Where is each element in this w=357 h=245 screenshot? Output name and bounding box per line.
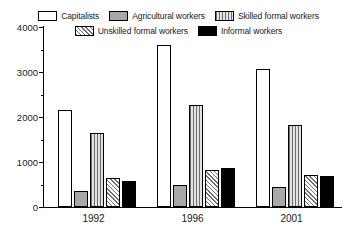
bar-group-1992: 1992 [44, 27, 143, 207]
bar-unskilled-formal-workers-1996 [205, 170, 219, 207]
y-tick-label: 2000 [17, 112, 44, 123]
bar-agricultural-workers-1992 [74, 191, 88, 207]
legend-swatch-skilled-formal-workers [215, 11, 234, 21]
bar-informal-workers-1996 [221, 168, 235, 207]
legend-swatch-agricultural-workers [109, 11, 128, 21]
bar-informal-workers-2001 [320, 176, 334, 207]
bar-skilled-formal-workers-1996 [189, 105, 203, 207]
bars-container [157, 27, 237, 207]
x-axis-label-1992: 1992 [44, 213, 143, 224]
bar-capitalists-1992 [58, 110, 72, 207]
bar-informal-workers-1992 [122, 181, 136, 207]
bar-capitalists-1996 [157, 45, 171, 207]
bar-unskilled-formal-workers-1992 [106, 178, 120, 207]
bar-skilled-formal-workers-1992 [90, 133, 104, 207]
legend-swatch-capitalists [38, 11, 57, 21]
x-axis-label-1996: 1996 [143, 213, 242, 224]
legend-label-agricultural-workers: Agricultural workers [132, 11, 205, 21]
bar-capitalists-2001 [256, 69, 270, 207]
bars-container [256, 27, 336, 207]
bar-agricultural-workers-1996 [173, 185, 187, 207]
bar-skilled-formal-workers-2001 [288, 125, 302, 207]
bars-container [58, 27, 138, 207]
legend-item-agricultural-workers: Agricultural workers [109, 11, 205, 21]
y-tick-label: 3000 [17, 67, 44, 78]
legend-row-1: Capitalists Agricultural workers Skilled… [0, 8, 357, 23]
legend-item-capitalists: Capitalists [38, 11, 99, 21]
y-tick-label: 4000 [17, 22, 44, 33]
bar-group-2001: 2001 [242, 27, 341, 207]
x-axis-line [43, 207, 342, 208]
legend-label-capitalists: Capitalists [61, 11, 99, 21]
legend-label-skilled-formal-workers: Skilled formal workers [238, 11, 319, 21]
y-tick-label: 1000 [17, 157, 44, 168]
y-tick-label: 0 [33, 202, 44, 213]
bar-chart-figure: Capitalists Agricultural workers Skilled… [0, 0, 357, 245]
bar-unskilled-formal-workers-2001 [304, 175, 318, 207]
plot-area: 01000200030004000199219962001 [44, 27, 341, 207]
bar-agricultural-workers-2001 [272, 187, 286, 207]
bar-group-1996: 1996 [143, 27, 242, 207]
legend-item-skilled-formal-workers: Skilled formal workers [215, 11, 319, 21]
x-axis-label-2001: 2001 [242, 213, 341, 224]
